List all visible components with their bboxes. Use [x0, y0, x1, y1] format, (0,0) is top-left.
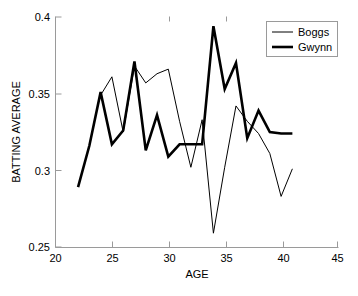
chart-figure: 0.4 0.35 0.3 0.25 20 25 30 35 40 45 AGE …	[0, 0, 358, 296]
legend: Boggs Gwynn	[267, 22, 338, 57]
x-tick-labels: 20 25 30 35 40 45	[49, 252, 343, 264]
x-tick-label: 35	[220, 252, 232, 264]
y-tick-label: 0.25	[29, 241, 50, 253]
x-tick-label: 45	[331, 252, 343, 264]
x-tick-label: 40	[277, 252, 289, 264]
x-axis-title: AGE	[185, 268, 208, 280]
y-tick-label: 0.3	[35, 165, 50, 177]
line-chart: 0.4 0.35 0.3 0.25 20 25 30 35 40 45 AGE …	[0, 0, 358, 296]
y-tick-labels: 0.4 0.35 0.3 0.25	[29, 11, 50, 253]
x-tick-label: 25	[106, 252, 118, 264]
legend-label-gwynn: Gwynn	[298, 41, 332, 53]
x-tick-label: 20	[49, 252, 61, 264]
legend-label-boggs: Boggs	[298, 26, 330, 38]
series-line-gwynn	[78, 26, 292, 187]
y-tick-label: 0.4	[35, 11, 50, 23]
x-tick-label: 30	[163, 252, 175, 264]
y-tick-label: 0.35	[29, 88, 50, 100]
y-tick-marks	[56, 17, 62, 247]
y-axis-title: BATTING AVERAGE	[10, 81, 22, 183]
